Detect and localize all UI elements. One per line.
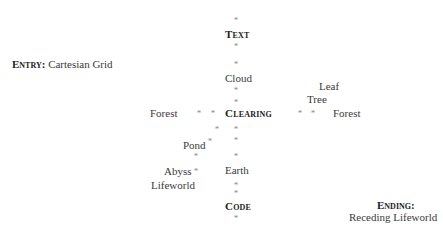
marker-star: *	[232, 214, 240, 223]
marker-star: *	[232, 152, 240, 161]
node-lifeworld: Lifeworld	[151, 179, 195, 191]
node-clearing: Clearing	[225, 107, 272, 119]
marker-star: *	[232, 16, 240, 25]
entry-value: Cartesian Grid	[48, 58, 112, 70]
entry-label: Entry: Cartesian Grid	[12, 58, 113, 70]
marker-star: *	[209, 109, 217, 118]
marker-star: *	[213, 125, 221, 134]
ending-value: Receding Lifeworld	[349, 211, 437, 223]
node-text: Text	[225, 28, 250, 40]
marker-star: *	[232, 125, 240, 134]
node-code: Code	[225, 200, 251, 212]
node-pond: Pond	[183, 139, 206, 151]
node-forest-left: Forest	[150, 107, 178, 119]
marker-star: *	[309, 109, 317, 118]
entry-heading: Entry:	[12, 58, 45, 70]
marker-star: *	[192, 152, 200, 161]
node-abyss: Abyss	[164, 165, 192, 177]
marker-star: *	[232, 42, 240, 51]
node-earth: Earth	[225, 164, 249, 176]
marker-star: *	[195, 109, 203, 118]
marker-star: *	[232, 60, 240, 69]
marker-star: *	[232, 136, 240, 145]
node-forest-right: Forest	[333, 107, 361, 119]
node-cloud: Cloud	[225, 72, 252, 84]
ending-heading: Ending:	[377, 199, 415, 211]
marker-star: *	[206, 137, 214, 146]
node-tree: Tree	[307, 93, 327, 105]
marker-star: *	[232, 98, 240, 107]
marker-star: *	[192, 167, 200, 176]
node-leaf: Leaf	[319, 80, 339, 92]
marker-star: *	[232, 86, 240, 95]
marker-star: *	[232, 189, 240, 198]
marker-star: *	[296, 109, 304, 118]
